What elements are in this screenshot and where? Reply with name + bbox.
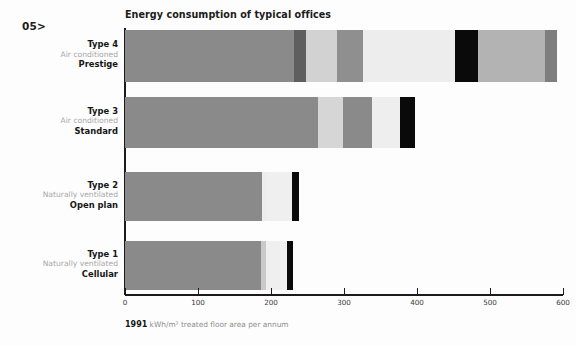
bar-segment xyxy=(125,30,294,82)
category-type: Type 4 xyxy=(8,39,118,50)
x-tick xyxy=(271,288,272,295)
x-tick xyxy=(417,288,418,295)
bar-segment xyxy=(125,172,262,221)
x-tick-label: 0 xyxy=(123,298,128,307)
category-grade: Cellular xyxy=(8,269,118,280)
x-tick xyxy=(490,288,491,295)
x-tick-label: 200 xyxy=(264,298,278,307)
bar-segment xyxy=(125,241,261,290)
chart-page: 05> Energy consumption of typical office… xyxy=(0,0,576,345)
bar-type-3 xyxy=(125,97,415,148)
bar-segment xyxy=(545,30,557,82)
category-label-type-4: Type 4Air conditionedPrestige xyxy=(8,39,118,70)
bar-segment xyxy=(292,172,299,221)
category-grade: Prestige xyxy=(8,59,118,70)
category-type: Type 1 xyxy=(8,249,118,260)
bar-segment xyxy=(267,172,293,221)
page-title: Energy consumption of typical offices xyxy=(125,9,331,20)
x-tick-label: 100 xyxy=(191,298,205,307)
x-tick xyxy=(563,288,564,295)
category-label-type-3: Type 3Air conditionedStandard xyxy=(8,106,118,137)
bar-segment xyxy=(372,97,400,148)
bar-type-1 xyxy=(125,241,293,290)
category-type: Type 3 xyxy=(8,106,118,117)
bar-segment xyxy=(294,30,306,82)
bar-segment xyxy=(287,241,293,290)
category-type: Type 2 xyxy=(8,180,118,191)
category-grade: Open plan xyxy=(8,200,118,211)
bar-segment xyxy=(306,30,337,82)
page-marker: 05> xyxy=(22,20,46,32)
caption-text: kWh/m² treated floor area per annum xyxy=(147,320,288,329)
caption-year: 1991 xyxy=(125,320,147,329)
x-tick-label: 600 xyxy=(556,298,570,307)
category-label-type-1: Type 1Naturally ventilatedCellular xyxy=(8,249,118,280)
category-label-type-2: Type 2Naturally ventilatedOpen plan xyxy=(8,180,118,211)
bar-type-2 xyxy=(125,172,299,221)
category-grade: Standard xyxy=(8,126,118,137)
bar-segment xyxy=(343,97,371,148)
bar-segment xyxy=(363,30,455,82)
x-tick-label: 400 xyxy=(410,298,424,307)
category-ventilation: Air conditioned xyxy=(8,50,118,60)
bar-segment xyxy=(478,30,545,82)
bar-segment xyxy=(318,97,344,148)
bar-segment xyxy=(266,241,287,290)
category-ventilation: Naturally ventilated xyxy=(8,259,118,269)
axis-caption: 1991 kWh/m² treated floor area per annum xyxy=(125,320,289,329)
bar-type-4 xyxy=(125,30,557,82)
bar-segment xyxy=(455,30,478,82)
bar-segment xyxy=(400,97,415,148)
x-tick-label: 300 xyxy=(337,298,351,307)
bar-segment xyxy=(337,30,363,82)
category-ventilation: Air conditioned xyxy=(8,116,118,126)
x-tick xyxy=(198,288,199,295)
category-ventilation: Naturally ventilated xyxy=(8,190,118,200)
x-tick xyxy=(344,288,345,295)
x-tick-label: 500 xyxy=(483,298,497,307)
bar-segment xyxy=(125,97,318,148)
x-tick xyxy=(125,288,126,295)
